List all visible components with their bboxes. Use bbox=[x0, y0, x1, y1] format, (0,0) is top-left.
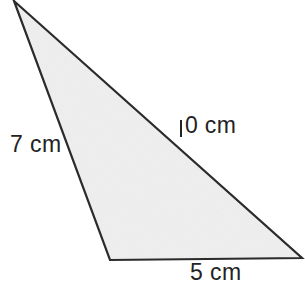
side-label-hypotenuse-10cm: 10 cm bbox=[178, 114, 236, 137]
side-label-hypotenuse-rest: 0 cm bbox=[185, 112, 236, 138]
side-label-base-5cm: 5 cm bbox=[190, 261, 241, 284]
triangle-figure: 7 cm 10 cm 5 cm bbox=[0, 0, 305, 288]
side-label-left-7cm: 7 cm bbox=[10, 133, 61, 156]
digit-one-glyph: 1 bbox=[178, 114, 185, 137]
